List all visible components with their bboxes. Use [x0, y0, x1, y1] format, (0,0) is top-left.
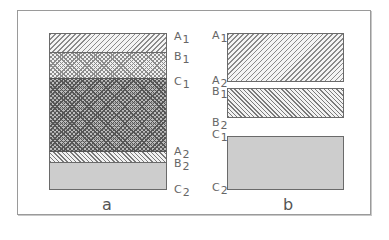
label-c2: C2 — [174, 184, 190, 195]
label-b1: B1 — [174, 51, 190, 62]
rect-b — [227, 88, 344, 118]
label-a2: A2 — [174, 146, 190, 157]
label-a1: A1 — [212, 30, 228, 41]
label-c1: C1 — [174, 76, 190, 87]
rect-c — [227, 136, 344, 190]
label-c2: C2 — [212, 182, 228, 193]
label-c1: C1 — [212, 129, 228, 140]
label-b2: B2 — [212, 117, 228, 128]
layer-a1-b1 — [49, 33, 167, 53]
label-b1: B1 — [212, 86, 228, 97]
layer-b2-c2 — [49, 163, 167, 190]
layer-c1-a2 — [49, 78, 167, 151]
rect-a — [227, 33, 344, 82]
layer-a2-b2 — [49, 151, 167, 163]
label-b2: B2 — [174, 158, 190, 169]
caption-b: b — [283, 195, 293, 214]
label-a1: A1 — [174, 31, 190, 42]
layer-b1-c1 — [49, 53, 167, 78]
caption-a: a — [102, 195, 112, 214]
